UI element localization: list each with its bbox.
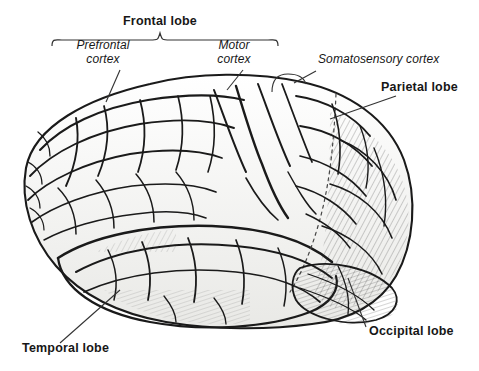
label-occipital-lobe: Occipital lobe — [369, 324, 454, 338]
label-somatosensory-cortex: Somatosensory cortex — [318, 52, 439, 66]
label-parietal-lobe: Parietal lobe — [381, 80, 458, 94]
label-motor-cortex-line1: Motor — [217, 38, 250, 52]
temporal-lobe-leader — [60, 290, 120, 343]
label-prefrontal-cortex: Prefrontal cortex — [76, 38, 129, 66]
label-motor-cortex: Motor cortex — [217, 38, 250, 66]
label-prefrontal-cortex-line2: cortex — [76, 52, 129, 66]
label-frontal-lobe: Frontal lobe — [123, 14, 197, 28]
brain-illustration — [24, 75, 420, 336]
label-temporal-lobe: Temporal lobe — [22, 341, 109, 355]
label-motor-cortex-line2: cortex — [217, 52, 250, 66]
label-prefrontal-cortex-line1: Prefrontal — [76, 38, 129, 52]
